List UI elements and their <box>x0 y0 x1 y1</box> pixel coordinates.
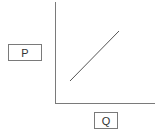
y-axis-label-box: P <box>8 44 42 61</box>
x-axis-label: Q <box>102 115 111 127</box>
axes-diagram <box>0 0 165 136</box>
y-axis-label: P <box>21 47 28 59</box>
supply-curve <box>70 31 119 81</box>
x-axis-label-box: Q <box>94 112 118 129</box>
